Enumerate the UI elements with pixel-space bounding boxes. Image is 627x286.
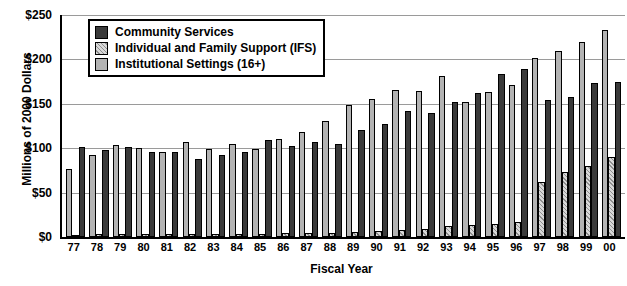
bar-inst-84 [229,144,235,237]
x-tick-label: 99 [575,241,598,253]
x-tick-label: 78 [85,241,108,253]
bar-group-98 [553,15,576,237]
legend-label: Community Services [115,25,234,39]
bar-cs-99 [591,83,597,237]
bar-group-96 [507,15,530,237]
bar-inst-88 [322,121,328,237]
bar-inst-96 [509,85,515,237]
bar-cs-88 [335,144,341,237]
x-tick-label: 77 [62,241,85,253]
x-tick-label: 87 [295,241,318,253]
bar-inst-79 [113,145,119,237]
bar-cs-98 [568,97,574,237]
bar-inst-82 [183,142,189,237]
bar-group-92 [413,15,436,237]
y-tick-label: $250 [25,8,52,22]
legend-item-cs: Community Services [95,24,316,40]
x-tick-label: 83 [202,241,225,253]
bar-cs-95 [498,74,504,237]
bar-cs-89 [358,130,364,237]
x-tick-label: 94 [458,241,481,253]
bar-inst-87 [299,132,305,237]
bar-cs-85 [265,140,271,237]
bar-cs-92 [428,113,434,237]
bar-cs-83 [219,155,225,237]
bar-inst-92 [416,91,422,237]
x-tick-label: 96 [505,241,528,253]
x-tick-label: 98 [551,241,574,253]
bar-inst-81 [159,152,165,237]
legend-label: Institutional Settings (16+) [115,57,265,71]
bar-inst-78 [89,155,95,237]
x-tick-label: 80 [132,241,155,253]
bar-group-95 [483,15,506,237]
bar-inst-85 [252,149,258,237]
chart-container: Millions of 2000 Dollars $0$50$100$150$2… [0,0,627,286]
x-tick-label: 79 [109,241,132,253]
bar-inst-80 [136,148,142,237]
bar-cs-93 [452,102,458,237]
legend-swatch-cs-icon [95,26,108,39]
y-tick-label: $150 [25,97,52,111]
bar-inst-91 [392,90,398,237]
bar-inst-93 [439,76,445,237]
x-tick-label: 90 [365,241,388,253]
bar-group-99 [577,15,600,237]
x-axis-title: Fiscal Year [60,262,623,276]
bar-inst-94 [462,102,468,237]
bar-cs-80 [149,152,155,237]
bar-group-97 [530,15,553,237]
y-tick-label: $50 [32,186,52,200]
bar-inst-83 [206,149,212,237]
y-tick-label: $100 [25,141,52,155]
y-axis-tick-labels: $0$50$100$150$200$250 [0,0,56,286]
x-tick-label: 92 [411,241,434,253]
bar-inst-90 [369,99,375,237]
bar-cs-94 [475,93,481,237]
y-tick-label: $200 [25,52,52,66]
bar-cs-86 [289,146,295,237]
x-tick-label: 97 [528,241,551,253]
bar-cs-87 [312,142,318,237]
y-tick-label: $0 [39,230,52,244]
bar-group-90 [367,15,390,237]
bar-inst-95 [485,92,491,237]
x-tick-label: 81 [155,241,178,253]
bar-group-00 [600,15,623,237]
x-tick-label: 82 [178,241,201,253]
bar-cs-91 [405,111,411,237]
x-tick-label: 00 [598,241,621,253]
bar-cs-84 [242,152,248,237]
x-tick-label: 84 [225,241,248,253]
legend-swatch-ifs-icon [95,42,108,55]
x-tick-label: 85 [248,241,271,253]
bar-group-93 [437,15,460,237]
bar-cs-96 [521,69,527,237]
x-tick-label: 93 [435,241,458,253]
x-tick-label: 88 [318,241,341,253]
x-tick-label: 89 [342,241,365,253]
bar-group-94 [460,15,483,237]
bar-cs-77 [79,147,85,237]
x-axis-tick-labels: 7778798081828384858687888990919293949596… [60,241,623,253]
x-tick-label: 91 [388,241,411,253]
chart-legend: Community ServicesIndividual and Family … [88,19,325,77]
legend-swatch-inst-icon [95,58,108,71]
legend-item-ifs: Individual and Family Support (IFS) [95,40,316,56]
bar-cs-90 [382,124,388,237]
x-tick-label: 95 [481,241,504,253]
x-tick-label: 86 [272,241,295,253]
bar-group-89 [344,15,367,237]
legend-item-inst: Institutional Settings (16+) [95,56,316,72]
bar-inst-77 [66,169,72,237]
legend-label: Individual and Family Support (IFS) [115,41,316,55]
bar-group-77 [64,15,87,237]
bar-cs-78 [102,150,108,237]
bar-cs-81 [172,152,178,237]
bar-inst-86 [276,139,282,237]
bar-cs-97 [545,100,551,237]
bar-group-91 [390,15,413,237]
bar-cs-79 [125,147,131,237]
bar-cs-00 [615,82,621,237]
bar-inst-89 [346,105,352,237]
